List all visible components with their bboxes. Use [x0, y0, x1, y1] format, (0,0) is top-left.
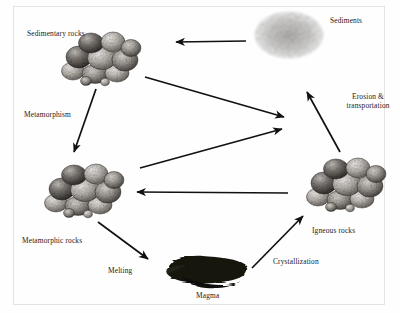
process-label-metamorphism: Metamorphism [24, 110, 71, 119]
arrow-metamorphic-to-hub [140, 129, 282, 168]
sediments-art [253, 10, 325, 60]
arrow-metamorphism [74, 89, 96, 152]
igneous-rocks-art [307, 158, 387, 212]
node-label-sedimentary-rocks: Sedimentary rocks [27, 29, 85, 38]
magma-art [166, 256, 247, 288]
arrow-erosion-transportation [307, 92, 340, 152]
sedimentary-rocks-art [62, 32, 142, 86]
process-label-erosion-and-transportation: Erosion & transportation [340, 92, 396, 111]
diagram-canvas [0, 0, 400, 313]
arrow-igneous-to-metamorphic [137, 192, 288, 193]
node-label-magma: Magma [196, 291, 219, 300]
arrow-melting [98, 222, 148, 259]
node-label-igneous-rocks: Igneous rocks [312, 226, 355, 235]
arrow-sedimentary-to-hub [145, 77, 284, 117]
node-label-metamorphic-rocks: Metamorphic rocks [22, 236, 82, 245]
process-label-melting: Melting [108, 266, 132, 275]
process-label-crystallization: Crystallization [273, 257, 319, 266]
node-label-sediments: Sediments [330, 16, 362, 25]
arrow-sediments-to-sedimentary [176, 41, 246, 42]
rock-cycle-diagram: Sedimentary rocks Sediments Metamorphic … [0, 0, 400, 313]
metamorphic-rocks-art [45, 164, 125, 218]
